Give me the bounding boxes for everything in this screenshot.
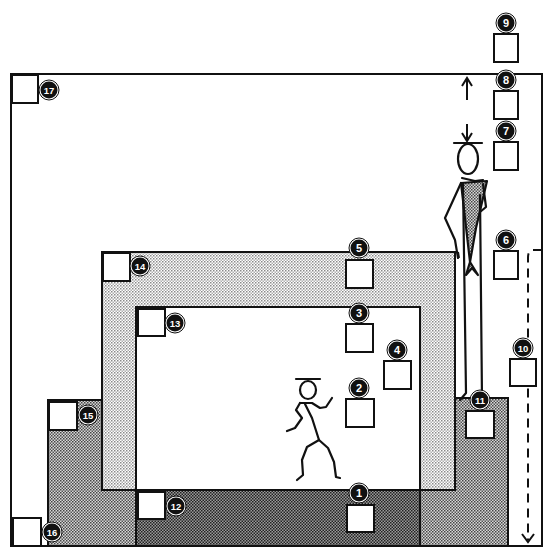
marker-number: 9 bbox=[503, 17, 509, 29]
marker-square bbox=[103, 253, 130, 281]
marker-number: 7 bbox=[503, 125, 509, 137]
marker-number: 13 bbox=[170, 318, 181, 329]
marker-number: 12 bbox=[171, 501, 182, 512]
marker-5: 5 bbox=[346, 238, 373, 288]
marker-number: 2 bbox=[356, 382, 362, 394]
marker-number: 4 bbox=[394, 344, 401, 356]
marker-number: 6 bbox=[503, 234, 509, 246]
marker-square bbox=[13, 518, 41, 546]
marker-9: 9 bbox=[494, 13, 518, 62]
marker-7: 7 bbox=[494, 121, 518, 170]
marker-square bbox=[346, 260, 373, 288]
marker-16: 16 bbox=[13, 518, 62, 546]
zone-13-inner bbox=[136, 307, 420, 490]
marker-11: 11 bbox=[466, 390, 494, 438]
marker-square bbox=[384, 361, 411, 389]
marker-8: 8 bbox=[494, 70, 518, 119]
marker-number: 15 bbox=[83, 410, 94, 421]
marker-square bbox=[346, 399, 374, 427]
stage-diagram: 1234567891011121314151617 bbox=[0, 0, 554, 554]
pillar-lines bbox=[458, 252, 459, 258]
marker-number: 3 bbox=[356, 307, 362, 319]
marker-10: 10 bbox=[510, 338, 536, 386]
height-arrows bbox=[462, 78, 472, 141]
marker-3: 3 bbox=[346, 303, 373, 352]
marker-square bbox=[138, 309, 165, 336]
marker-6: 6 bbox=[494, 230, 518, 279]
marker-square bbox=[494, 91, 518, 119]
marker-12: 12 bbox=[138, 492, 186, 519]
marker-square bbox=[138, 492, 165, 519]
marker-square bbox=[49, 402, 77, 430]
marker-square bbox=[510, 359, 536, 386]
marker-number: 1 bbox=[356, 487, 362, 499]
marker-number: 11 bbox=[475, 395, 486, 406]
marker-square bbox=[466, 411, 494, 438]
marker-number: 8 bbox=[503, 74, 509, 86]
marker-square bbox=[347, 505, 374, 532]
marker-number: 17 bbox=[44, 85, 55, 96]
marker-13: 13 bbox=[138, 309, 185, 336]
marker-number: 10 bbox=[518, 343, 529, 354]
marker-square bbox=[12, 75, 38, 103]
marker-square bbox=[346, 324, 373, 352]
marker-square bbox=[494, 142, 518, 170]
marker-square bbox=[494, 34, 518, 62]
marker-number: 14 bbox=[135, 261, 146, 272]
marker-number: 16 bbox=[47, 527, 58, 538]
marker-square bbox=[494, 251, 518, 279]
dashed-path bbox=[522, 250, 542, 542]
marker-number: 5 bbox=[356, 242, 362, 254]
marker-4: 4 bbox=[384, 340, 411, 389]
marker-17: 17 bbox=[12, 75, 59, 103]
